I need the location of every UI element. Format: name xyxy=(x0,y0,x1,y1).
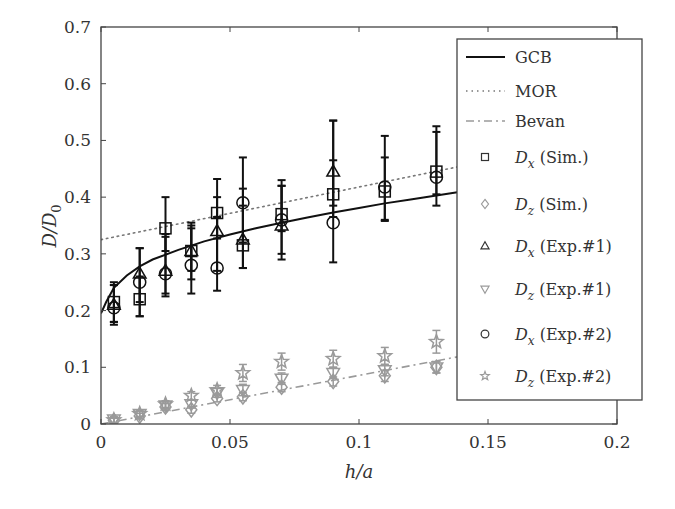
legend-label: MOR xyxy=(515,82,558,101)
legend-label: GCB xyxy=(515,48,552,67)
x-tick-label: 0 xyxy=(96,432,107,452)
y-tick-label: 0.1 xyxy=(64,357,91,377)
y-tick-label: 0.3 xyxy=(64,244,91,264)
x-tick-label: 0.2 xyxy=(603,432,630,452)
x-tick-label: 0.1 xyxy=(345,432,372,452)
legend: GCBMORBevanDx (Sim.)Dz (Sim.)Dx (Exp.#1)… xyxy=(457,39,642,400)
svg-text:D/D0: D/D0 xyxy=(39,204,64,248)
y-tick-label: 0.6 xyxy=(64,74,91,94)
y-tick-label: 0.2 xyxy=(64,301,91,321)
series-dx-exp-1- xyxy=(108,121,340,322)
plot-area xyxy=(101,121,462,428)
x-axis-label: h/a xyxy=(345,461,373,482)
x-tick-label: 0.05 xyxy=(211,432,249,452)
x-tick-label: 0.15 xyxy=(469,432,507,452)
series-dz-sim- xyxy=(108,360,442,428)
y-tick-label: 0.4 xyxy=(64,187,91,207)
series-dz-exp-1- xyxy=(108,362,443,426)
diffusion-chart: 00.050.10.150.200.10.20.30.40.50.60.7 h/… xyxy=(0,0,675,509)
y-tick-label: 0.7 xyxy=(64,17,91,37)
y-axis-label: D/D0 xyxy=(39,204,64,248)
legend-label: Bevan xyxy=(515,112,565,131)
series-dx-exp-2- xyxy=(108,121,443,325)
series-dz-exp-2- xyxy=(107,330,443,425)
y-tick-label: 0.5 xyxy=(64,130,91,150)
series-dx-sim- xyxy=(108,132,442,322)
y-tick-label: 0 xyxy=(80,414,91,434)
